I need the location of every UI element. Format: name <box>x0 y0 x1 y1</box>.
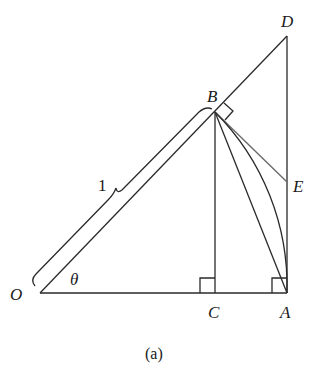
segment-BA <box>215 112 287 293</box>
right-angle-B <box>224 103 233 120</box>
right-angle-C <box>200 278 215 293</box>
label-B: B <box>207 87 218 106</box>
right-angle-A <box>272 278 287 293</box>
segment-OD <box>40 36 287 293</box>
segment-BE <box>215 112 287 182</box>
label-E: E <box>292 177 304 196</box>
label-A: A <box>279 303 291 322</box>
label-D: D <box>280 12 294 31</box>
trig-diagram: O C A B D E θ 1 (a) <box>0 0 311 372</box>
caption: (a) <box>145 345 163 363</box>
length-label: 1 <box>98 176 107 195</box>
brace-OB <box>33 108 212 286</box>
label-O: O <box>10 285 22 304</box>
label-C: C <box>208 303 220 322</box>
angle-theta-label: θ <box>70 270 78 289</box>
